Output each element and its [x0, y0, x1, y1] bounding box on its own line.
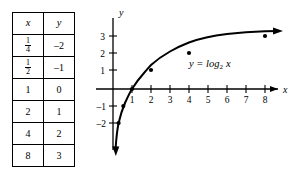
equation-arg: x: [225, 58, 231, 69]
fraction-denominator: 2: [25, 67, 31, 76]
x-axis-tick-labels: 1 2 3 4 5 6 7 8: [130, 95, 268, 105]
x-tick-label-4: 4: [187, 95, 192, 105]
fraction-numerator: 1: [25, 37, 31, 45]
x-tick-label-7: 7: [244, 95, 249, 105]
cell-y-0: –2: [44, 35, 75, 57]
table-row: 1 2 –1: [13, 57, 75, 79]
point-quarter-neg2: [117, 121, 121, 125]
equation-label: y = log2x: [188, 58, 231, 71]
log-graph: 1 2 3 4 5 6 7 8 3 2 1 –1 –2 y x: [92, 0, 295, 173]
table-header-row: x y: [13, 13, 75, 35]
cell-x-2: 1: [13, 79, 44, 101]
x-tick-label-3: 3: [168, 95, 173, 105]
fraction-one-quarter: 1 4: [25, 37, 31, 55]
log-curve-group: [112, 27, 283, 156]
x-axis-arrow-icon: [270, 86, 278, 92]
table-header-y: y: [44, 13, 75, 35]
table-row: 1 0: [13, 79, 75, 101]
table-row: 2 1: [13, 101, 75, 123]
cell-y-4: 2: [44, 123, 75, 145]
y-tick-label-3: 3: [100, 32, 105, 42]
fraction-denominator: 4: [25, 45, 31, 54]
fraction-one-half: 1 2: [25, 59, 31, 77]
y-tick-label-neg1: –1: [96, 102, 107, 112]
cell-y-5: 3: [44, 145, 75, 167]
curve-bottom-arrow-icon: [112, 146, 119, 156]
cell-y-2: 0: [44, 79, 75, 101]
x-axis-label: x: [282, 84, 288, 95]
log2-curve: [116, 31, 278, 150]
cell-x-5: 8: [13, 145, 44, 167]
y-tick-label-neg2: –2: [96, 119, 107, 129]
cell-y-3: 1: [44, 101, 75, 123]
table-header-x: x: [13, 13, 44, 35]
table-body: x y 1 4 –2 1 2 –1: [13, 13, 75, 167]
point-1-0: [130, 87, 134, 91]
value-table: x y 1 4 –2 1 2 –1: [12, 12, 75, 167]
svg-text:y = log2x: y = log2x: [188, 58, 231, 71]
equation-lhs: y = log: [188, 58, 219, 69]
x-tick-label-2: 2: [149, 95, 154, 105]
logarithmic-function-figure: x y 1 4 –2 1 2 –1: [0, 0, 295, 173]
point-4-2: [187, 51, 191, 55]
axes-group: [96, 18, 278, 150]
table-row: 8 3: [13, 145, 75, 167]
cell-y-1: –1: [44, 57, 75, 79]
table-row: 4 2: [13, 123, 75, 145]
cell-x-1: 1 2: [13, 57, 44, 79]
fraction-numerator: 1: [25, 59, 31, 67]
cell-x-3: 2: [13, 101, 44, 123]
y-tick-label-1: 1: [100, 66, 105, 76]
curve-right-arrow-icon: [273, 27, 283, 34]
x-tick-label-5: 5: [206, 95, 211, 105]
y-axis-tick-labels: 3 2 1 –1 –2: [96, 32, 107, 129]
point-2-1: [149, 68, 153, 72]
y-tick-label-2: 2: [100, 49, 105, 59]
cell-x-0: 1 4: [13, 35, 44, 57]
cell-x-4: 4: [13, 123, 44, 145]
point-half-neg1: [121, 104, 125, 108]
x-tick-label-6: 6: [225, 95, 230, 105]
point-8-3: [263, 34, 267, 38]
equation-base: 2: [219, 63, 223, 71]
table-row: 1 4 –2: [13, 35, 75, 57]
y-axis-label: y: [118, 7, 124, 18]
x-tick-label-1: 1: [130, 95, 135, 105]
x-tick-label-8: 8: [263, 95, 268, 105]
